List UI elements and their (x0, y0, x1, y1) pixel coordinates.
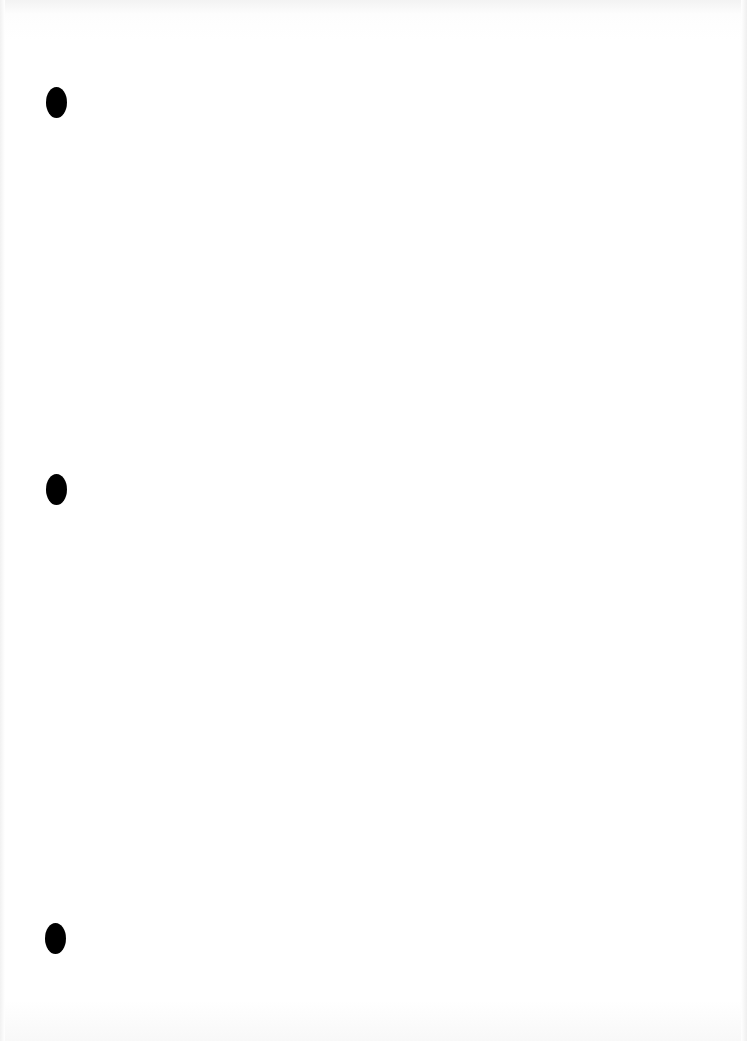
scanned-page (0, 0, 747, 1041)
punch-hole-middle (46, 474, 67, 505)
punch-hole-bottom (45, 923, 66, 954)
page-edge-left (0, 0, 5, 1041)
page-edge-right (741, 0, 747, 1041)
punch-hole-top (46, 87, 67, 118)
